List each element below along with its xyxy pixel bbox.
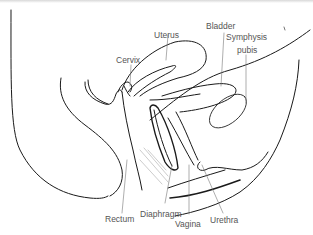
back-contour [11, 10, 108, 198]
label-cervix: Cervix [116, 56, 140, 65]
symphysis-pubis-shape [203, 88, 252, 135]
label-bladder: Bladder [206, 22, 235, 31]
front-contour [175, 60, 299, 216]
abdominal-wall [150, 30, 310, 120]
diaphragm-shading [140, 148, 168, 184]
label-rectum: Rectum [105, 215, 134, 224]
label-urethra: Urethra [210, 216, 238, 225]
rectum-outline [60, 78, 122, 196]
leader-rectum [122, 160, 127, 213]
label-vagina: Vagina [175, 220, 201, 229]
leader-bladder [221, 33, 224, 86]
label-pubis: pubis [237, 46, 257, 55]
pelvis-diagram: Uterus Bladder Symphysis pubis Cervix Re… [0, 0, 313, 235]
rectum-front [85, 82, 122, 104]
label-symphysis: Symphysis [226, 33, 267, 42]
label-diaphragm: Diaphragm [140, 210, 182, 219]
label-uterus: Uterus [154, 31, 179, 40]
leader-cervix [130, 65, 131, 86]
